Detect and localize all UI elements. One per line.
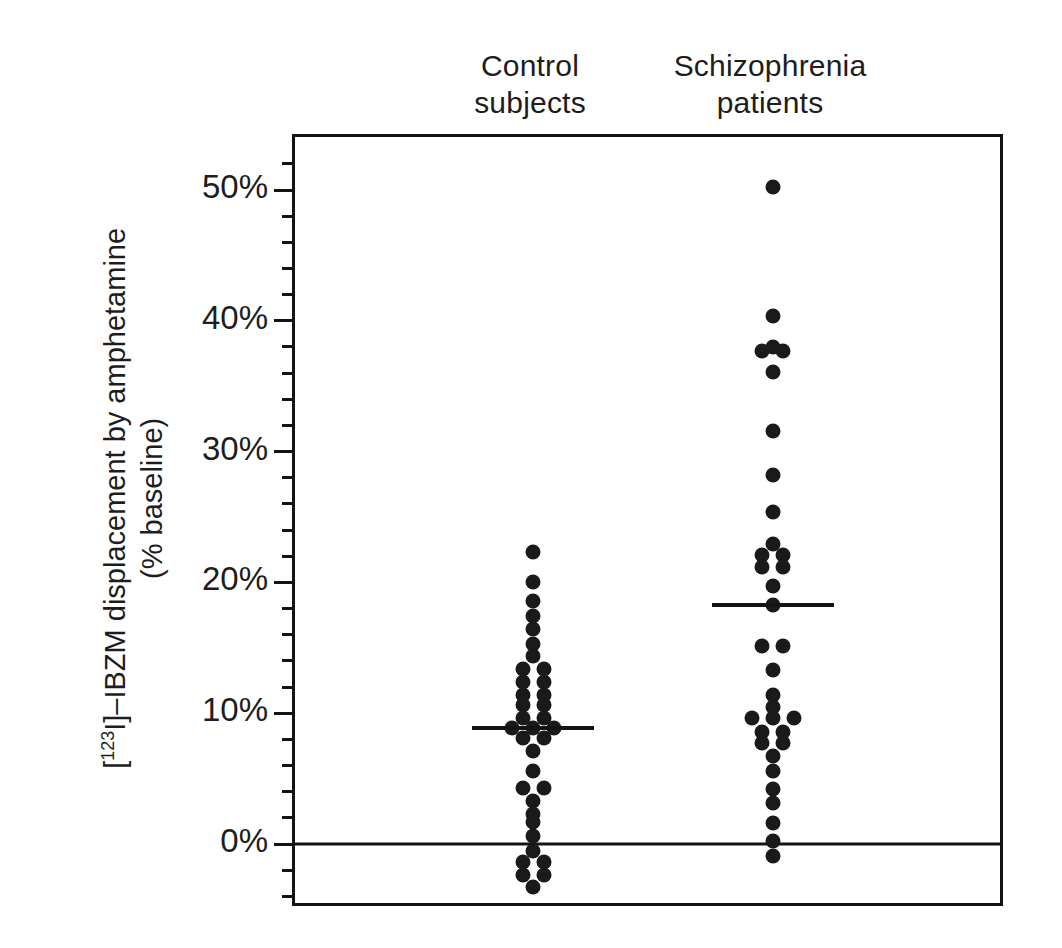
- data-point: [526, 880, 541, 895]
- data-point: [765, 663, 780, 678]
- y-axis-tick-label: 10%: [202, 691, 268, 729]
- data-point: [526, 622, 541, 637]
- data-point: [786, 711, 801, 726]
- baseline-zero-line: [295, 843, 1000, 846]
- data-point: [536, 868, 551, 883]
- data-point: [765, 848, 780, 863]
- y-axis-tick-minor: [282, 790, 295, 793]
- mean-line-control: [472, 726, 594, 730]
- data-point: [526, 829, 541, 844]
- y-axis-title: [123I]–IBZM displacement by amphetamine …: [61, 98, 170, 898]
- data-point: [526, 545, 541, 560]
- y-axis-tick-minor: [282, 529, 295, 532]
- y-axis-tick-minor: [282, 895, 295, 898]
- y-axis-tick-minor: [282, 241, 295, 244]
- y-axis-tick-minor: [282, 293, 295, 296]
- scatter-plot-figure: Control subjects Schizophrenia patients …: [0, 0, 1062, 948]
- y-axis-tick-major: [274, 189, 295, 192]
- data-point: [765, 711, 780, 726]
- data-layer: [295, 137, 1000, 903]
- group-header-schizophrenia: Schizophrenia patients: [640, 48, 900, 121]
- y-axis-tick-label: 50%: [202, 168, 268, 206]
- y-axis-tick-major: [274, 843, 295, 846]
- y-axis-tick-label: 30%: [202, 430, 268, 468]
- data-point: [765, 308, 780, 323]
- group-header-control: Control subjects: [400, 48, 660, 121]
- y-axis-tick-label: 40%: [202, 299, 268, 337]
- y-axis-title-rest: I]–IBZM displacement by amphetamine (% b…: [99, 228, 167, 731]
- y-axis-tick-minor: [282, 502, 295, 505]
- plot-frame: [292, 134, 1003, 906]
- mean-line-schizophrenia: [712, 603, 834, 607]
- data-point: [765, 180, 780, 195]
- data-point: [765, 834, 780, 849]
- y-axis-tick-minor: [282, 659, 295, 662]
- y-axis-tick-label: 20%: [202, 560, 268, 598]
- y-axis-tick-major: [274, 319, 295, 322]
- data-point: [765, 423, 780, 438]
- y-axis-tick-label: 0%: [220, 822, 268, 860]
- y-axis-tick-major: [274, 712, 295, 715]
- data-point: [755, 736, 770, 751]
- data-point: [526, 744, 541, 759]
- data-point: [515, 731, 530, 746]
- y-axis-tick-minor: [282, 424, 295, 427]
- data-point: [765, 579, 780, 594]
- y-axis-tick-minor: [282, 738, 295, 741]
- data-point: [776, 736, 791, 751]
- y-axis-tick-major: [274, 581, 295, 584]
- data-point: [765, 796, 780, 811]
- y-axis-tick-minor: [282, 476, 295, 479]
- y-axis-tick-minor: [282, 816, 295, 819]
- data-point: [765, 763, 780, 778]
- data-point: [776, 559, 791, 574]
- y-axis-tick-minor: [282, 869, 295, 872]
- data-point: [526, 763, 541, 778]
- data-point: [765, 364, 780, 379]
- data-point: [515, 780, 530, 795]
- y-axis-tick-minor: [282, 633, 295, 636]
- data-point: [755, 343, 770, 358]
- data-point: [755, 639, 770, 654]
- y-axis-title-prefix: [: [99, 761, 131, 769]
- data-point: [755, 559, 770, 574]
- y-axis-tick-minor: [282, 764, 295, 767]
- y-axis-title-superscript: 123: [98, 731, 118, 761]
- y-axis-tick-minor: [282, 267, 295, 270]
- y-axis-tick-minor: [282, 162, 295, 165]
- data-point: [526, 814, 541, 829]
- data-point: [765, 782, 780, 797]
- y-axis-tick-minor: [282, 686, 295, 689]
- data-point: [776, 343, 791, 358]
- data-point: [744, 711, 759, 726]
- data-point: [765, 468, 780, 483]
- data-point: [536, 731, 551, 746]
- y-axis-tick-minor: [282, 607, 295, 610]
- y-axis-tick-minor: [282, 215, 295, 218]
- y-axis-tick-minor: [282, 345, 295, 348]
- data-point: [765, 816, 780, 831]
- y-axis-tick-major: [274, 450, 295, 453]
- data-point: [526, 593, 541, 608]
- y-axis-tick-minor: [282, 398, 295, 401]
- data-point: [765, 749, 780, 764]
- data-point: [536, 780, 551, 795]
- data-point: [776, 639, 791, 654]
- y-axis-tick-minor: [282, 372, 295, 375]
- data-point: [765, 504, 780, 519]
- y-axis-tick-minor: [282, 555, 295, 558]
- data-point: [526, 648, 541, 663]
- data-point: [526, 575, 541, 590]
